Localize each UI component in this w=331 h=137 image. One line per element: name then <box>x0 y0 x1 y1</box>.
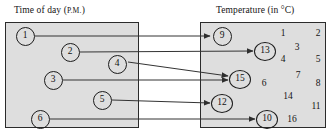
time-node-3[interactable]: 3 <box>44 71 63 90</box>
temp-value-1: 1 <box>281 29 286 39</box>
temp-value-2: 2 <box>316 29 321 39</box>
node-label: 4 <box>115 59 120 69</box>
temp-value-3: 3 <box>295 43 300 53</box>
node-label: 15 <box>235 74 245 84</box>
time-node-5[interactable]: 5 <box>93 91 112 110</box>
temp-value-7: 7 <box>296 71 301 81</box>
temp-value-11: 11 <box>311 102 320 112</box>
temp-value-5: 5 <box>316 55 321 65</box>
node-label: 9 <box>220 31 225 41</box>
node-label: 13 <box>260 46 270 56</box>
node-label: 2 <box>68 47 73 57</box>
temp-value-16: 16 <box>287 115 297 125</box>
temp-node-9[interactable]: 9 <box>213 27 232 46</box>
time-node-2[interactable]: 2 <box>61 43 80 62</box>
node-label: 6 <box>38 114 43 124</box>
temp-value-14: 14 <box>283 92 293 102</box>
temp-node-10[interactable]: 10 <box>256 110 278 129</box>
time-node-1[interactable]: 1 <box>16 27 35 46</box>
mapping-diagram: Time of day (P.M.) Temperature (in °C) 1… <box>0 0 331 137</box>
node-label: 10 <box>262 114 272 124</box>
time-node-6[interactable]: 6 <box>31 110 50 129</box>
temp-node-15[interactable]: 15 <box>229 70 251 89</box>
node-label: 12 <box>217 98 227 108</box>
arrow-2-to-13 <box>80 51 253 52</box>
node-label: 1 <box>23 31 28 41</box>
node-label: 3 <box>51 75 56 85</box>
time-node-4[interactable]: 4 <box>108 55 127 74</box>
temp-value-4: 4 <box>281 55 286 65</box>
arrow-4-to-15 <box>128 62 228 76</box>
node-label: 5 <box>100 95 105 105</box>
temp-value-8: 8 <box>316 79 321 89</box>
mapping-arrows <box>0 0 331 137</box>
temp-node-12[interactable]: 12 <box>211 94 233 113</box>
temp-node-13[interactable]: 13 <box>254 42 276 61</box>
arrow-5-to-12 <box>112 100 210 103</box>
temp-value-6: 6 <box>262 79 267 89</box>
